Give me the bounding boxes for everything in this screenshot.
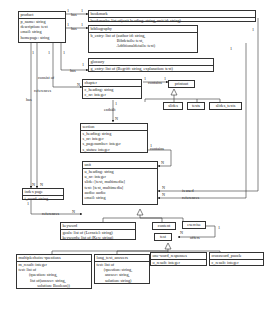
card-n: N (77, 82, 80, 87)
card-n: N (162, 185, 165, 190)
entity-one-word-responses[interactable]: one-word_responses o_result: integer (150, 252, 207, 266)
card-1: 1 (164, 76, 166, 81)
entity-product[interactable]: product p_name: string description: text… (18, 11, 66, 43)
relation-contains-unit: contains (150, 146, 164, 151)
card-1: 1 (27, 201, 29, 206)
entity-test[interactable]: test (154, 233, 172, 241)
entity-texts[interactable]: texts (187, 102, 205, 110)
relation-has-bibliography: has (71, 26, 77, 31)
relation-references-bib: references (182, 195, 199, 200)
entity-attributes: goals: list of (Lernziel: string) keywor… (61, 230, 135, 241)
entity-attributes: g_entry: list of (Begriff: string, expla… (89, 66, 213, 72)
card-1: 1 (218, 225, 220, 230)
relation-has-bookmark: has (71, 12, 77, 17)
card-n: N (72, 209, 75, 214)
card-1: 1 (48, 50, 50, 55)
entity-attributes: c_result: integer (210, 260, 263, 266)
relation-references-unit: references (42, 211, 59, 216)
card-n: N (162, 192, 165, 197)
entity-chapter[interactable]: chapter c_heading: string c_nr: integer (82, 79, 142, 99)
entity-attributes: m_result: integer test: list of (questio… (17, 262, 91, 289)
entity-attributes: test: list of (question: string, answer:… (95, 262, 149, 284)
entity-attributes: c_heading: string c_nr: integer (83, 87, 141, 98)
card-1: 1 (115, 101, 117, 106)
entity-glossary[interactable]: glossary g_entry: list of (Begriff: stri… (88, 58, 214, 72)
entity-keyword[interactable]: keyword goals: list of (Lernziel: string… (60, 222, 136, 240)
card-1: 1 (144, 76, 146, 81)
relation-offers: offers (190, 235, 200, 240)
entity-bibliography[interactable]: bibliography b_entry: list of (author id… (88, 25, 198, 53)
entity-attributes: b_entry: list of (author id: string, Bib… (89, 33, 197, 50)
relation-is-used: is used (182, 188, 194, 193)
card-1: 1 (81, 8, 83, 13)
entity-printout[interactable]: printout (168, 80, 195, 88)
card-1: 1 (81, 22, 83, 27)
card-1: 1 (63, 50, 65, 55)
relation-enthaelt: enthält (104, 107, 115, 112)
entity-attributes: s_heading: string s_nr: integer s_pagenu… (81, 131, 147, 153)
relation-has-glossary: has (70, 68, 76, 73)
entity-index-page[interactable]: index page i_word: string (22, 188, 64, 200)
card-1: 1 (252, 27, 254, 32)
card-1: 1 (32, 50, 34, 55)
relation-has-index: has (26, 97, 32, 102)
entity-long-text-answers[interactable]: long_text_answers test: list of (questio… (94, 254, 150, 284)
card-n: N (161, 160, 164, 165)
entity-attributes: p_name: string description: text email: … (19, 19, 65, 41)
entity-crossword-puzzle[interactable]: crossword_puzzle c_result: integer (209, 252, 264, 266)
entity-unit[interactable]: unit u_heading: string u_nr: integer sli… (82, 161, 158, 205)
card-n: N (115, 116, 118, 121)
entity-attributes: o_result: integer (151, 260, 206, 266)
card-n: N (180, 230, 183, 235)
entity-section[interactable]: section s_heading: string s_nr: integer … (80, 123, 148, 153)
relation-consist-of: consist of (38, 75, 54, 80)
relation-contains-printout: contains (148, 80, 162, 85)
card-1: 1 (230, 46, 232, 51)
entity-bookmark[interactable]: bookmark bookmarks: list of(unit heading… (88, 10, 256, 22)
entity-multiplechoice-questions[interactable]: multiplechoice-questions m_result: integ… (16, 254, 92, 289)
entity-exercise[interactable]: exercise (182, 221, 206, 229)
card-n: N (40, 182, 43, 187)
card-1: 1 (67, 22, 69, 27)
entity-slides[interactable]: slides (163, 102, 183, 110)
card-1: 1 (67, 8, 69, 13)
card-1: 1 (150, 143, 152, 148)
entity-content[interactable]: content (152, 222, 176, 230)
card-1: 1 (82, 62, 84, 67)
relation-references: references (34, 88, 51, 93)
entity-attributes: u_heading: string u_nr: integer slide: [… (83, 169, 157, 201)
entity-slides-texts[interactable]: slides_texts (209, 102, 242, 110)
entity-attributes: bookmarks: list of(unit heading: string,… (89, 18, 255, 24)
card-n: N (32, 182, 35, 187)
